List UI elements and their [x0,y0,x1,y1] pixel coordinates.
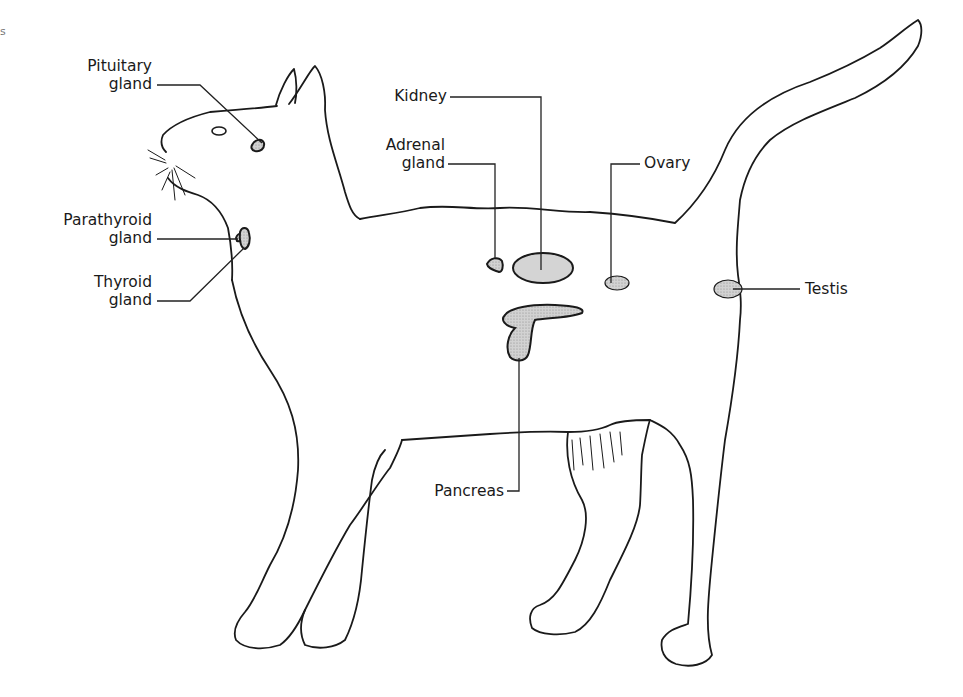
label-parathyroid-gland: Parathyroid gland [40,211,152,247]
label-kidney-line1: Kidney [380,87,447,105]
adrenal-gland-shape [487,258,503,272]
label-adrenal-gland: Adrenal gland [370,136,445,172]
pituitary-gland-shape [251,140,264,151]
label-pancreas: Pancreas [420,482,504,500]
label-adrenal-line2: gland [370,154,445,172]
cat-endocrine-diagram: s [0,0,963,697]
label-parathyroid-line2: gland [40,229,152,247]
cat-outline [148,20,921,666]
label-pituitary-gland: Pituitary gland [78,57,152,93]
cat-illustration [0,0,963,697]
label-pituitary-line1: Pituitary [78,57,152,75]
label-thyroid-line1: Thyroid [70,273,152,291]
label-pituitary-line2: gland [78,75,152,93]
ovary-shape [605,276,629,290]
label-testis: Testis [805,280,848,298]
label-parathyroid-line1: Parathyroid [40,211,152,229]
organs [236,140,742,361]
label-ovary: Ovary [644,154,690,172]
thyroid-gland-shape [240,228,250,249]
label-kidney: Kidney [380,87,447,105]
pancreas-shape [503,305,582,361]
label-adrenal-line1: Adrenal [370,136,445,154]
label-thyroid-gland: Thyroid gland [70,273,152,309]
label-testis-line1: Testis [805,280,848,298]
kidney-shape [513,253,573,283]
label-pancreas-line1: Pancreas [420,482,504,500]
label-ovary-line1: Ovary [644,154,690,172]
label-thyroid-line2: gland [70,291,152,309]
